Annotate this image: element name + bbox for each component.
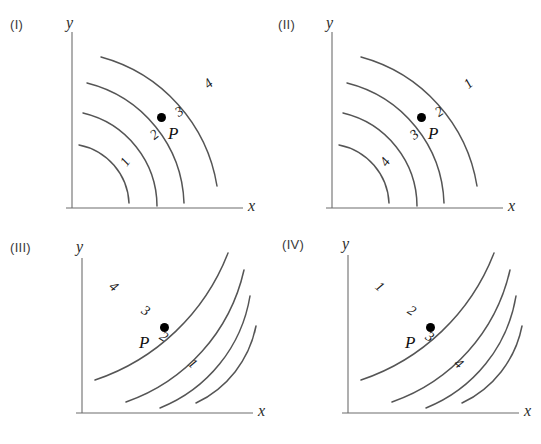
level-curve-2	[426, 296, 516, 408]
panel-I-graphic	[0, 0, 270, 222]
y-axis-label: y	[76, 238, 83, 256]
point-P-dot	[157, 113, 166, 122]
panel-II-graphic	[270, 0, 540, 222]
level-curve-4	[95, 253, 228, 380]
level-curve-2	[160, 296, 250, 408]
point-P-label: P	[168, 125, 178, 142]
x-axis-label: x	[258, 402, 265, 420]
level-curve-1	[462, 326, 522, 403]
point-P-dot	[160, 323, 169, 332]
x-axis-label: x	[508, 197, 515, 215]
point-P-label: P	[139, 334, 149, 351]
level-curve-3	[87, 83, 184, 203]
y-axis-label: y	[326, 14, 333, 32]
level-curve-4	[361, 253, 494, 380]
x-axis-label: x	[248, 197, 255, 215]
point-P-dot	[417, 113, 426, 122]
x-axis-label: x	[524, 402, 531, 420]
level-curve-1	[79, 145, 129, 203]
point-P-label: P	[405, 334, 415, 351]
level-curve-1	[339, 145, 389, 203]
point-P-label: P	[428, 125, 438, 142]
panel-IV: (IV) 4 3 2 1 P y x	[270, 222, 540, 444]
panel-I: (I) 1 2 3 4 P y x	[0, 0, 270, 222]
level-curve-1	[196, 326, 256, 403]
y-axis-label: y	[66, 14, 73, 32]
panel-III: (III) 1 2 3 4 P y x	[0, 222, 270, 444]
y-axis-label: y	[342, 235, 349, 253]
panel-II: (II) 4 3 2 1 P y x	[270, 0, 540, 222]
panel-III-graphic	[0, 222, 270, 444]
point-P-dot	[426, 323, 435, 332]
level-curve-3	[347, 83, 444, 203]
contour-figure: (I) 1 2 3 4 P y x (II) 4	[0, 0, 541, 444]
